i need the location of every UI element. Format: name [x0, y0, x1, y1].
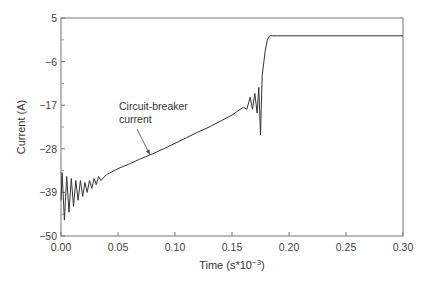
annotation-line-1: Circuit-breaker	[119, 100, 188, 112]
x-tick-label: 0.30	[393, 241, 414, 253]
y-tick-label: −28	[39, 143, 57, 155]
y-tick-label: −39	[39, 186, 57, 198]
x-tick-label: 0.10	[165, 241, 186, 253]
annotation-line-2: current	[119, 113, 152, 125]
plot-frame	[61, 18, 403, 236]
x-tick-label: 0.00	[51, 241, 72, 253]
annotation-circuit-breaker-current: Circuit-breaker current	[119, 100, 188, 155]
x-tick-label: 0.20	[279, 241, 300, 253]
y-tick-label: −17	[39, 99, 57, 111]
annotation-arrow-icon	[137, 129, 148, 151]
chart: 5−6−17−28−39−50 0.000.050.100.150.200.25…	[0, 0, 426, 286]
x-axis-title: Time (s*10−3)	[199, 258, 265, 271]
series-circuit-breaker-current	[61, 36, 403, 220]
y-tick-label: 5	[51, 12, 57, 24]
x-tick-label: 0.25	[336, 241, 357, 253]
x-axis-ticks: 0.000.050.100.150.200.250.30	[51, 232, 414, 253]
x-tick-label: 0.05	[108, 241, 129, 253]
y-axis-title: Current (A)	[15, 100, 27, 154]
series-line	[61, 36, 403, 220]
y-tick-label: −6	[45, 56, 57, 68]
x-tick-label: 0.15	[222, 241, 243, 253]
